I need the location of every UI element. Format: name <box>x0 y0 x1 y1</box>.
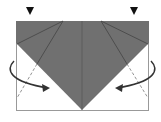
origami-diagram <box>0 0 161 122</box>
push-marker-left-icon <box>26 7 34 15</box>
push-marker-right-icon <box>130 7 138 15</box>
